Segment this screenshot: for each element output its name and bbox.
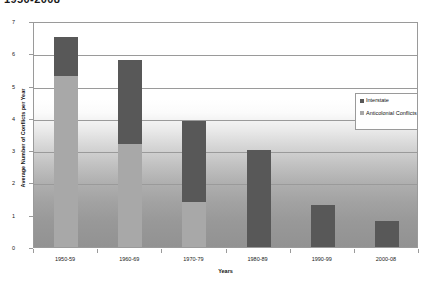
x-tick-mark xyxy=(354,249,355,253)
x-tick-label: 2000-08 xyxy=(376,256,396,262)
y-tick-label: 0 xyxy=(0,245,15,251)
y-tick-label: 1 xyxy=(0,213,15,219)
x-tick-label: 1960-69 xyxy=(119,256,139,262)
y-tick-label: 3 xyxy=(0,148,15,154)
chart-container: 1950-2008 Interstate Anticolonial Confli… xyxy=(0,0,431,286)
y-tick-mark xyxy=(29,54,33,55)
x-tick-mark xyxy=(33,249,34,253)
y-axis-title: Average Number of Conflicts per Year xyxy=(20,68,26,208)
y-tick-label: 4 xyxy=(0,116,15,122)
y-tick-label: 5 xyxy=(0,84,15,90)
x-tick-label: 1970-79 xyxy=(183,256,203,262)
x-tick-mark xyxy=(290,249,291,253)
y-tick-mark xyxy=(29,22,33,23)
x-tick-mark xyxy=(226,249,227,253)
y-tick-mark xyxy=(29,183,33,184)
x-tick-label: 1990-99 xyxy=(312,256,332,262)
y-tick-mark xyxy=(29,216,33,217)
x-axis-ticks: 1950-591960-691970-791980-891990-992000-… xyxy=(33,249,418,265)
chart-title: 1950-2008 xyxy=(4,0,60,5)
x-tick-mark xyxy=(161,249,162,253)
y-tick-label: 7 xyxy=(0,19,15,25)
y-tick-label: 2 xyxy=(0,180,15,186)
y-tick-mark xyxy=(29,151,33,152)
x-tick-label: 1980-89 xyxy=(247,256,267,262)
y-tick-mark xyxy=(29,87,33,88)
y-tick-mark xyxy=(29,119,33,120)
x-tick-mark xyxy=(97,249,98,253)
y-tick-label: 6 xyxy=(0,51,15,57)
x-tick-mark xyxy=(418,249,419,253)
y-axis-ticks: 01234567 xyxy=(0,22,431,248)
x-axis-title: Years xyxy=(33,268,418,274)
x-tick-label: 1950-59 xyxy=(55,256,75,262)
